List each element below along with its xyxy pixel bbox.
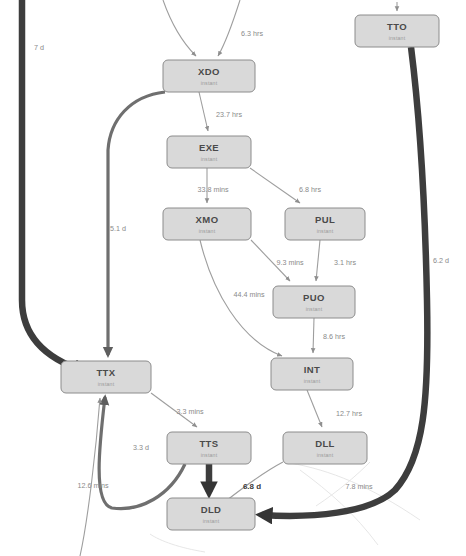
node-xmo[interactable]: XMO instant	[163, 208, 251, 240]
node-exe-label: EXE	[199, 142, 219, 153]
node-exe-subtitle: instant	[201, 156, 218, 162]
edge-label-7-8mins: 7.8 mins	[345, 482, 373, 491]
node-xmo-label: XMO	[196, 214, 219, 225]
edge-pul-puo	[316, 240, 320, 281]
node-int[interactable]: INT instant	[271, 358, 353, 390]
edge-label-6-2d: 6.2 d	[433, 256, 449, 265]
diagram-canvas: 6.3 hrs 23.7 hrs 33.8 mins 6.8 hrs 44.4 …	[0, 0, 466, 556]
flow-graph-svg: 6.3 hrs 23.7 hrs 33.8 mins 6.8 hrs 44.4 …	[0, 0, 466, 556]
edge-label-7d: 7 d	[34, 43, 44, 52]
node-puo[interactable]: PUO instant	[273, 286, 355, 318]
edge-label-23-7hrs: 23.7 hrs	[216, 110, 242, 119]
node-int-subtitle: instant	[304, 378, 321, 384]
node-pul-label: PUL	[315, 214, 335, 225]
edge-in-left-xdo	[163, 0, 196, 56]
node-tts-label: TTS	[199, 438, 218, 449]
node-pul-subtitle: instant	[317, 228, 334, 234]
node-dll-label: DLL	[315, 438, 335, 449]
edge-label-12-7hrs: 12.7 hrs	[336, 409, 362, 418]
edge-label-6-8d: 6.8 d	[243, 482, 261, 491]
node-int-label: INT	[304, 364, 321, 375]
node-dld-label: DLD	[201, 504, 222, 515]
edge-dld-ttx	[80, 398, 100, 556]
edge-label-3-1hrs: 3.1 hrs	[334, 258, 356, 267]
edge-label-6-3hrs: 6.3 hrs	[241, 29, 263, 38]
node-exe[interactable]: EXE instant	[167, 136, 251, 168]
node-ttx-subtitle: instant	[98, 381, 115, 387]
node-tto-subtitle: instant	[389, 35, 406, 41]
node-tts[interactable]: TTS instant	[167, 432, 251, 464]
edge-label-9-3mins: 9.3 mins	[276, 258, 304, 267]
edge-label-3-3d: 3.3 d	[133, 443, 149, 452]
edge-label-12-6mins: 12.6 mins	[77, 481, 109, 490]
node-dld-subtitle: instant	[203, 518, 220, 524]
edge-label-6-8hrs: 6.8 hrs	[299, 185, 321, 194]
edge-int-dll	[307, 390, 322, 427]
edge-label-33-8mins: 33.8 mins	[197, 185, 229, 194]
edge-puo-int	[313, 318, 314, 353]
node-puo-subtitle: instant	[306, 306, 323, 312]
node-dld[interactable]: DLD instant	[167, 498, 255, 530]
edge-label-5-1d: 5.1 d	[110, 224, 126, 233]
edge-label-8-6hrs: 8.6 hrs	[323, 332, 345, 341]
node-dll[interactable]: DLL instant	[283, 432, 367, 464]
node-pul[interactable]: PUL instant	[285, 208, 365, 240]
node-xdo-label: XDO	[198, 66, 220, 77]
edge-xdo-exe	[199, 92, 208, 131]
node-xmo-subtitle: instant	[199, 228, 216, 234]
node-puo-label: PUO	[303, 292, 325, 303]
edge-labels: 6.3 hrs 23.7 hrs 33.8 mins 6.8 hrs 44.4 …	[34, 29, 449, 491]
edge-label-3-3mins: 3.3 mins	[176, 407, 204, 416]
node-ttx[interactable]: TTX instant	[61, 361, 151, 393]
edge-exe-pul	[250, 168, 300, 203]
edge-label-44-4mins: 44.4 mins	[233, 290, 265, 299]
edge-far-left-7d	[22, 0, 84, 371]
node-dll-subtitle: instant	[317, 452, 334, 458]
node-tto[interactable]: TTO instant	[355, 15, 439, 47]
node-ttx-label: TTX	[96, 367, 115, 378]
node-xdo[interactable]: XDO instant	[163, 60, 255, 92]
node-xdo-subtitle: instant	[201, 80, 218, 86]
node-tts-subtitle: instant	[201, 452, 218, 458]
edge-in-right-xdo	[218, 0, 240, 56]
node-tto-label: TTO	[387, 21, 407, 32]
